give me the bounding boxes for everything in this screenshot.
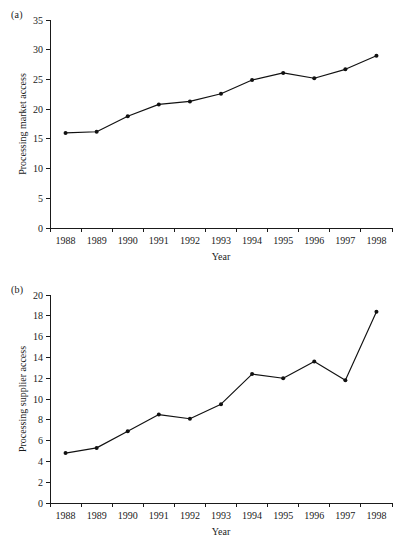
panel-a-x-tick-label: 1988 <box>56 235 76 246</box>
panel-a-x-tick-label: 1995 <box>273 235 293 246</box>
panel-b: (b) 024681012141618201988198919901991199… <box>0 275 407 550</box>
panel-a-plot: 0510152025303519881989199019911992199319… <box>0 0 407 275</box>
panel-b-data-point <box>126 429 130 433</box>
panel-b-x-tick-label: 1990 <box>118 510 138 521</box>
panel-b-x-axis-title: Year <box>212 526 231 537</box>
panel-b-y-tick-label: 16 <box>33 331 43 342</box>
panel-b-data-point <box>312 360 316 364</box>
panel-b-y-tick-label: 18 <box>33 310 43 321</box>
panel-b-x-tick-label: 1988 <box>56 510 76 521</box>
panel-b-data-point <box>219 402 223 406</box>
panel-a-data-point <box>95 130 99 134</box>
panel-b-x-tick-label: 1997 <box>335 510 355 521</box>
panel-b-x-tick-label: 1996 <box>304 510 324 521</box>
panel-a-data-point <box>250 78 254 82</box>
panel-a: (a) 051015202530351988198919901991199219… <box>0 0 407 275</box>
panel-a-y-tick-label: 35 <box>33 15 43 26</box>
panel-b-x-tick-label: 1998 <box>366 510 386 521</box>
panel-b-y-tick-label: 8 <box>38 414 43 425</box>
panel-b-series-line <box>66 312 377 453</box>
panel-a-y-tick-label: 20 <box>33 104 43 115</box>
panel-a-x-tick-label: 1992 <box>180 235 200 246</box>
panel-b-data-point <box>250 372 254 376</box>
panel-b-y-tick-label: 14 <box>33 352 43 363</box>
panel-a-x-tick-label: 1994 <box>242 235 262 246</box>
panel-b-data-point <box>95 446 99 450</box>
panel-a-y-tick-label: 0 <box>38 223 43 234</box>
panel-b-x-tick-label: 1989 <box>87 510 107 521</box>
panel-b-y-tick-label: 6 <box>38 435 43 446</box>
panel-b-data-point <box>374 310 378 314</box>
panel-b-x-tick-label: 1994 <box>242 510 262 521</box>
panel-a-x-tick-label: 1991 <box>149 235 169 246</box>
panel-b-x-tick-label: 1993 <box>211 510 231 521</box>
panel-a-x-tick-label: 1998 <box>366 235 386 246</box>
panel-b-plot: 0246810121416182019881989199019911992199… <box>0 275 407 550</box>
panel-a-x-tick-label: 1990 <box>118 235 138 246</box>
panel-a-x-tick-label: 1989 <box>87 235 107 246</box>
panel-a-y-tick-label: 30 <box>33 44 43 55</box>
panel-b-data-point <box>157 413 161 417</box>
panel-b-x-tick-label: 1992 <box>180 510 200 521</box>
panel-a-data-point <box>343 67 347 71</box>
panel-a-y-tick-label: 5 <box>38 193 43 204</box>
panel-b-y-tick-label: 10 <box>33 394 43 405</box>
panel-b-y-axis-title: Processing supplier access <box>17 346 28 452</box>
panel-b-x-tick-label: 1995 <box>273 510 293 521</box>
figure-two-panel-line-charts: (a) 051015202530351988198919901991199219… <box>0 0 407 550</box>
panel-b-y-tick-label: 20 <box>33 290 43 301</box>
panel-b-data-point <box>64 451 68 455</box>
panel-a-x-tick-label: 1993 <box>211 235 231 246</box>
panel-a-y-tick-label: 25 <box>33 74 43 85</box>
panel-b-y-tick-label: 0 <box>38 498 43 509</box>
panel-a-y-tick-label: 10 <box>33 163 43 174</box>
panel-a-x-tick-label: 1996 <box>304 235 324 246</box>
panel-a-data-point <box>64 131 68 135</box>
panel-a-data-point <box>312 76 316 80</box>
panel-b-y-tick-label: 4 <box>38 456 43 467</box>
panel-b-y-tick-label: 12 <box>33 373 43 384</box>
panel-b-x-tick-label: 1991 <box>149 510 169 521</box>
panel-a-data-point <box>219 92 223 96</box>
panel-a-data-point <box>126 114 130 118</box>
panel-a-data-point <box>157 102 161 106</box>
panel-a-data-point <box>188 99 192 103</box>
panel-a-data-point <box>281 71 285 75</box>
panel-b-data-point <box>188 417 192 421</box>
panel-b-y-tick-label: 2 <box>38 477 43 488</box>
panel-a-x-axis-title: Year <box>212 251 231 262</box>
panel-b-data-point <box>343 378 347 382</box>
panel-a-x-tick-label: 1997 <box>335 235 355 246</box>
panel-a-y-axis-title: Processing market access <box>17 73 28 175</box>
panel-a-data-point <box>374 54 378 58</box>
panel-a-y-tick-label: 15 <box>33 133 43 144</box>
panel-b-data-point <box>281 376 285 380</box>
